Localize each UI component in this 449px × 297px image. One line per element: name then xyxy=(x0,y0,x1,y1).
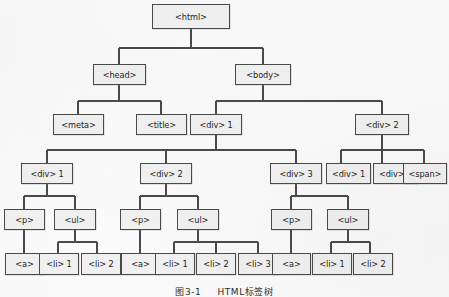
node-group2-p[interactable]: <p> xyxy=(120,209,161,230)
figure-page: <html> <head> <body> <meta> <title> <div… xyxy=(0,0,449,297)
node-body-div-1[interactable]: <div> 1 xyxy=(190,114,242,135)
figure-caption: 图3-1 HTML标签树 xyxy=(0,285,449,297)
node-html[interactable]: <html> xyxy=(152,4,230,29)
node-meta[interactable]: <meta> xyxy=(53,114,104,135)
node-group2-li-2[interactable]: <li> 2 xyxy=(196,253,236,275)
node-group1-p[interactable]: <p> xyxy=(4,209,45,230)
node-head[interactable]: <head> xyxy=(93,64,146,85)
node-group1-li-2[interactable]: <li> 2 xyxy=(81,253,121,275)
node-group3-li-2[interactable]: <li> 2 xyxy=(353,253,393,275)
node-div1-child-div-1[interactable]: <div> 1 xyxy=(21,163,73,184)
node-body-div-2[interactable]: <div> 2 xyxy=(355,114,409,135)
node-group2-ul[interactable]: <ul> xyxy=(177,209,219,230)
node-div1-child-div-3[interactable]: <div> 3 xyxy=(270,163,322,184)
node-group3-li-1[interactable]: <li> 1 xyxy=(312,253,352,275)
node-div2-child-span[interactable]: <span> xyxy=(403,163,447,184)
node-group1-li-1[interactable]: <li> 1 xyxy=(39,253,79,275)
node-group3-ul[interactable]: <ul> xyxy=(327,209,369,230)
node-title[interactable]: <title> xyxy=(136,114,187,135)
node-body[interactable]: <body> xyxy=(235,64,291,85)
node-group3-p[interactable]: <p> xyxy=(271,209,312,230)
node-group1-ul[interactable]: <ul> xyxy=(54,209,96,230)
node-group3-a[interactable]: <a> xyxy=(272,253,311,275)
node-div2-child-div-1[interactable]: <div> 1 xyxy=(326,163,371,184)
node-div1-child-div-2[interactable]: <div> 2 xyxy=(140,163,192,184)
figure-caption-number: 图3-1 xyxy=(175,287,201,297)
node-group2-li-1[interactable]: <li> 1 xyxy=(155,253,195,275)
figure-caption-title: HTML标签树 xyxy=(217,287,273,297)
